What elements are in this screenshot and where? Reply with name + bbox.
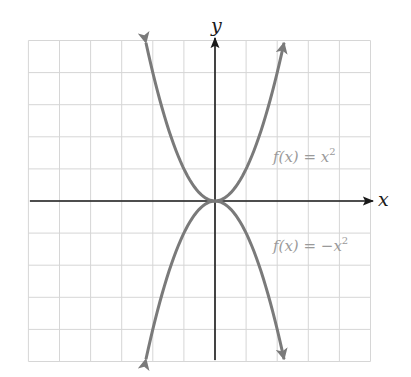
x-axis-label: x — [378, 188, 389, 210]
y-axis-label: y — [210, 14, 222, 36]
label-x-squared: f(x) = x2 — [272, 146, 336, 166]
label-exponent: 2 — [329, 146, 335, 157]
label-body: (x) = −x — [279, 237, 343, 255]
label-body: (x) = x — [279, 148, 330, 166]
label-exponent: 2 — [342, 235, 348, 246]
parabola-chart: y x f(x) = x2 f(x) = −x2 — [0, 0, 411, 377]
label-neg-x-squared: f(x) = −x2 — [272, 235, 348, 255]
